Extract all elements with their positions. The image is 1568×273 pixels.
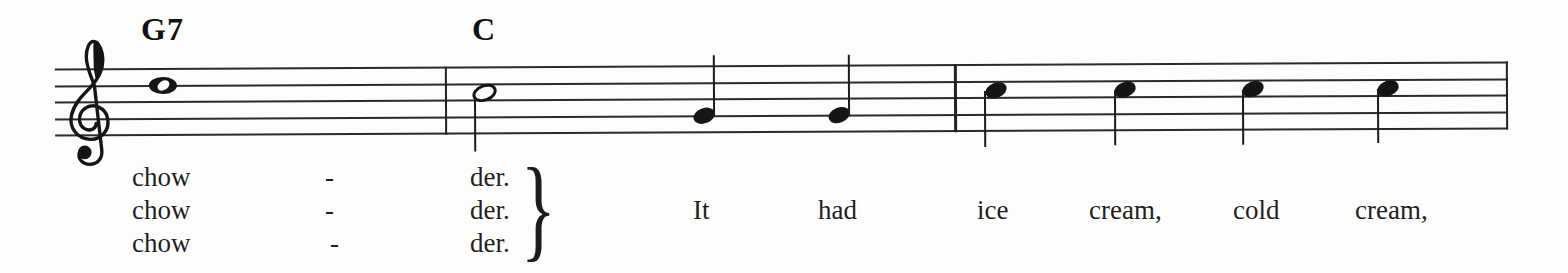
chord-symbol-c: C — [472, 13, 496, 45]
lyric-verse2-chow: chow — [132, 197, 190, 224]
lyric-verse3-hyphen: - — [330, 230, 339, 257]
lyric-verse2-hyphen: - — [325, 197, 334, 224]
lyric-verse1-der: der. — [470, 164, 510, 191]
lyric-cream2: cream, — [1355, 197, 1428, 224]
verse-brace: } — [520, 149, 556, 269]
lyric-had: had — [818, 197, 857, 224]
lyric-cold: cold — [1233, 197, 1280, 224]
chord-symbol-g7: G7 — [141, 13, 184, 45]
lyric-verse3-chow: chow — [132, 230, 190, 257]
lyric-ice: ice — [977, 197, 1008, 224]
lyric-it: It — [693, 197, 710, 224]
lyric-verse3-der: der. — [470, 230, 510, 257]
lyric-verse2-der: der. — [470, 197, 510, 224]
sheet-music-page: G7 C chow - der. chow - der. chow - der.… — [0, 0, 1568, 273]
lyric-verse1-chow: chow — [132, 164, 190, 191]
text-layer: G7 C chow - der. chow - der. chow - der.… — [0, 0, 1568, 273]
lyric-cream1: cream, — [1089, 197, 1162, 224]
brace-glyph: } — [520, 151, 555, 267]
lyric-verse1-hyphen: - — [325, 164, 334, 191]
